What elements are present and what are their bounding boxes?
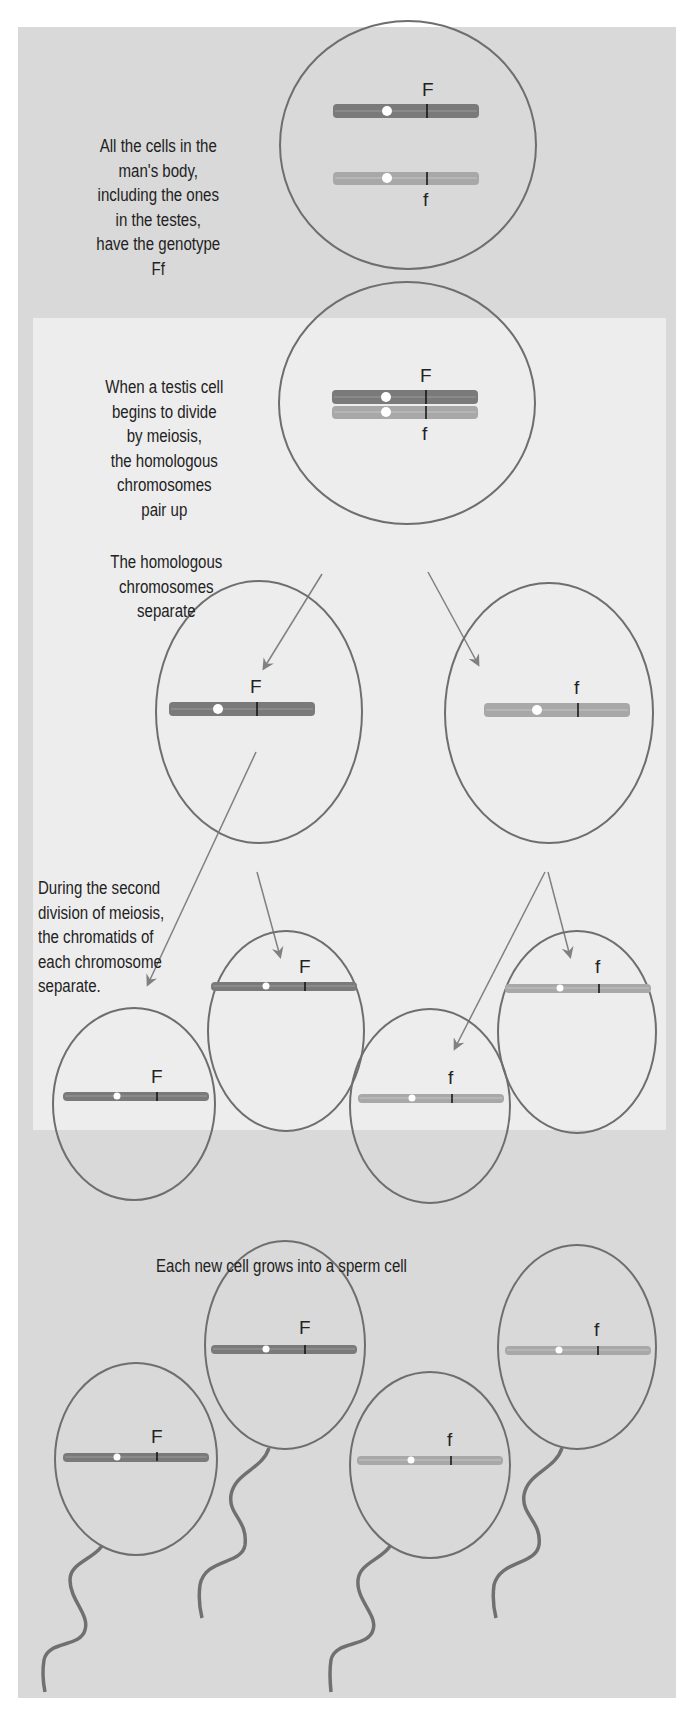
pairing-caption: When a testis cell begins to divide by m… [80,375,249,522]
allele-label: F [299,956,311,977]
allele-label: f [423,189,429,210]
allele-label: f [574,677,580,698]
sperm-cell: f [330,1372,510,1692]
allele-label: F [250,676,262,697]
somatic-cell: F f [280,21,536,269]
sperm-cell: f [493,1245,656,1618]
allele-label: f [595,956,601,977]
paired-homologs-cell: F f [279,282,535,524]
allele-label: f [594,1319,600,1340]
sperm-cell: F [199,1241,365,1618]
allele-label: f [422,423,428,444]
arrow-icon [548,872,570,956]
allele-label: f [448,1067,454,1088]
sperm-cell: F [43,1363,217,1692]
allele-label: F [299,1317,311,1338]
first-division-cell-f: f [445,583,653,843]
allele-label: f [447,1429,453,1450]
arrow-icon [257,872,280,956]
allele-label: F [422,79,434,100]
tail-icon [330,1535,396,1692]
chromosome-dominant [333,104,479,118]
allele-label: F [151,1426,163,1447]
chromosome-recessive [333,172,479,185]
separate-caption: The homologous chromosomes separate [82,550,251,624]
second-division-cell: f [498,931,656,1133]
tail-icon [43,1535,108,1692]
second-division-caption: During the second division of meiosis, t… [38,876,236,999]
allele-label: F [420,365,432,386]
second-division-cell: F [53,1008,215,1200]
second-division-cell: f [350,1009,510,1203]
sperm-caption: Each new cell grows into a sperm cell [156,1254,534,1279]
somatic-caption: All the cells in the man's body, includi… [74,134,243,281]
allele-label: F [151,1066,163,1087]
arrow-icon [428,572,478,664]
